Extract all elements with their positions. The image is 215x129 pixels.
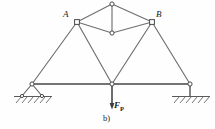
truss-diagram-canvas [0,0,215,129]
joint-a-label: A [63,10,69,19]
right-ground-hatching [174,97,210,104]
joint-b-node [150,20,155,25]
left-support-leg-node-2 [40,94,43,97]
figure-caption: b) [103,114,110,123]
member-apex-a [77,4,112,22]
member-apex-b [112,4,152,22]
left-pin-support [14,84,52,103]
right-pin-support [172,84,210,103]
member-a-left [32,22,77,84]
joint-b-label: B [156,10,162,19]
truss-diagram-figure: A B FP b) [0,0,215,129]
left-support-node [30,82,34,86]
top-apex-node [110,2,114,6]
center-load-node [110,82,114,86]
left-support-leg-node-1 [20,94,23,97]
right-support-node [188,82,192,86]
joint-a-node [75,20,80,25]
load-force-subscript: P [120,105,124,112]
member-b-right [152,22,190,84]
diamond-lower-node [110,31,114,35]
load-force-label: FP [114,101,124,112]
